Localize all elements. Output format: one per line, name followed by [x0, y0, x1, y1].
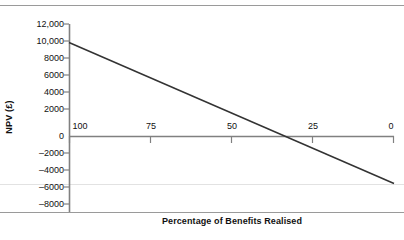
data-line-npv: [69, 43, 394, 184]
chart-figure: NPV (£) Percentage of Benefits Realised …: [0, 0, 404, 240]
plot-area: [0, 0, 404, 240]
